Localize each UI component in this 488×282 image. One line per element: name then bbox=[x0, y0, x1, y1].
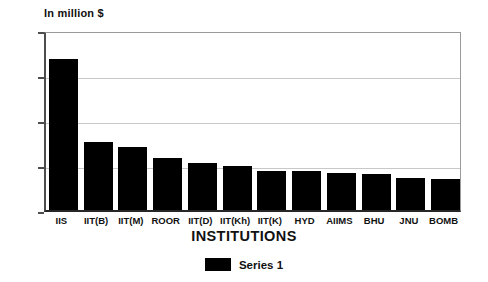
bar[interactable] bbox=[84, 142, 113, 210]
bar-slot bbox=[220, 33, 255, 210]
bars-layer bbox=[46, 33, 460, 210]
plot-area bbox=[44, 32, 461, 212]
bar[interactable] bbox=[188, 163, 217, 210]
x-tick-label: IIT(M) bbox=[114, 215, 149, 226]
bar-slot bbox=[185, 33, 220, 210]
bar-slot bbox=[289, 33, 324, 210]
x-tick-label: ROOR bbox=[148, 215, 183, 226]
legend-swatch-icon bbox=[205, 258, 231, 271]
bar[interactable] bbox=[223, 166, 252, 210]
bar-chart: In million $ 00.511.52 IISIIT(B)IIT(M)RO… bbox=[0, 0, 488, 282]
bar[interactable] bbox=[327, 173, 356, 210]
x-tick-label: BOMB bbox=[426, 215, 461, 226]
x-tick-label: AIIMS bbox=[322, 215, 357, 226]
x-tick-label: JNU bbox=[392, 215, 427, 226]
bar-slot bbox=[324, 33, 359, 210]
bar-slot bbox=[81, 33, 116, 210]
x-tick-label: IIT(B) bbox=[79, 215, 114, 226]
y-axis-unit-label: In million $ bbox=[44, 7, 104, 19]
bar-slot bbox=[116, 33, 151, 210]
bar[interactable] bbox=[49, 59, 78, 210]
x-tick-label: IIS bbox=[44, 215, 79, 226]
bar-slot bbox=[46, 33, 81, 210]
bar[interactable] bbox=[118, 147, 147, 210]
legend-entry[interactable]: Series 1 bbox=[205, 258, 283, 271]
bar-slot bbox=[150, 33, 185, 210]
x-tick-label: HYD bbox=[287, 215, 322, 226]
legend-label: Series 1 bbox=[239, 259, 283, 271]
y-tick-mark bbox=[38, 212, 44, 214]
bar-slot bbox=[359, 33, 394, 210]
bar[interactable] bbox=[153, 158, 182, 210]
bar[interactable] bbox=[257, 171, 286, 210]
x-tick-label: IIT(D) bbox=[183, 215, 218, 226]
x-tick-label: IIT(K) bbox=[253, 215, 288, 226]
x-tick-label: BHU bbox=[357, 215, 392, 226]
bar-slot bbox=[255, 33, 290, 210]
bar-slot bbox=[428, 33, 463, 210]
x-axis-title: INSTITUTIONS bbox=[0, 228, 488, 244]
bar[interactable] bbox=[396, 178, 425, 210]
bar-slot bbox=[394, 33, 429, 210]
bar[interactable] bbox=[362, 174, 391, 210]
x-tick-label: IIT(Kh) bbox=[218, 215, 253, 226]
bar[interactable] bbox=[431, 179, 460, 211]
chart-legend: Series 1 bbox=[0, 258, 488, 271]
bar[interactable] bbox=[292, 171, 321, 210]
